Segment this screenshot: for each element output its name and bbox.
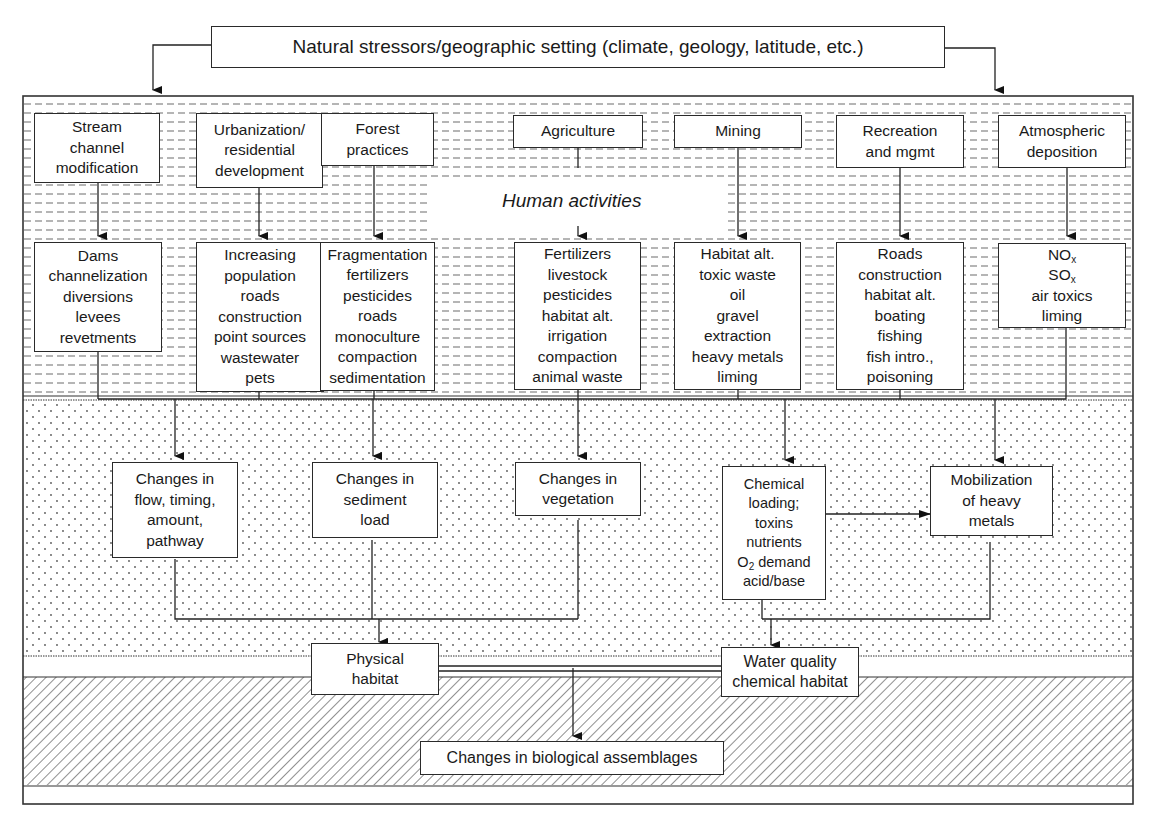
effect: livestock — [548, 265, 607, 286]
changes-flow: Changes in flow, timing, amount, pathway — [112, 462, 238, 558]
subscript: 2 — [749, 561, 755, 572]
label: O — [737, 554, 748, 570]
effect: point sources — [214, 327, 306, 348]
effect: roads — [358, 306, 397, 327]
effect: Roads — [878, 244, 923, 265]
label: development — [215, 161, 304, 182]
label: Water quality — [744, 652, 837, 673]
effects-forest-practices: Fragmentation fertilizers pesticides roa… — [320, 242, 435, 391]
effect: extraction — [704, 326, 771, 347]
label: Urbanization/ — [214, 120, 305, 141]
label: flow, timing, — [135, 490, 216, 511]
label: channel — [70, 138, 124, 159]
effect: pesticides — [343, 286, 412, 307]
effect: wastewater — [221, 348, 299, 369]
effect: poisoning — [867, 367, 933, 388]
label: Changes in — [539, 469, 617, 490]
human-activities-label: Human activities — [502, 190, 641, 212]
effect: habitat alt. — [542, 306, 614, 327]
label: Forest — [356, 119, 400, 140]
label: of heavy — [962, 491, 1021, 512]
activity-mining: Mining — [674, 115, 802, 148]
effect: channelization — [48, 266, 147, 287]
effect-text: SO — [1048, 266, 1070, 283]
label: chemical habitat — [732, 672, 848, 693]
activity-stream-channel: Stream channel modification — [34, 113, 160, 183]
effect: Increasing — [224, 245, 296, 266]
label: Mobilization — [951, 470, 1033, 491]
label: habitat — [352, 669, 399, 690]
label: vegetation — [542, 489, 614, 510]
label: residential — [224, 140, 295, 161]
effect-nox: NOx — [1048, 245, 1076, 266]
activity-forest-practices: Forest practices — [321, 113, 434, 166]
activity-atmospheric: Atmospheric deposition — [998, 115, 1126, 168]
label: Stream — [72, 117, 122, 138]
effect-text: NO — [1048, 246, 1071, 263]
effect: compaction — [338, 347, 417, 368]
label: Recreation — [863, 121, 938, 142]
effect: roads — [241, 286, 280, 307]
label: Changes in — [136, 469, 214, 490]
activity-agriculture: Agriculture — [513, 115, 643, 148]
label: demand — [758, 554, 810, 570]
effects-agriculture: Fertilizers livestock pesticides habitat… — [514, 242, 641, 390]
label-o2-demand: O2 demand — [737, 553, 810, 573]
label: toxins — [755, 514, 793, 534]
label: Agriculture — [541, 121, 615, 142]
label: loading; — [749, 494, 800, 514]
effects-recreation: Roads construction habitat alt. boating … — [836, 242, 964, 390]
activity-recreation: Recreation and mgmt — [836, 115, 964, 168]
label: Atmospheric — [1019, 121, 1105, 142]
label: metals — [969, 511, 1015, 532]
effect: population — [224, 266, 296, 287]
label: and mgmt — [866, 142, 935, 163]
effect: toxic waste — [699, 265, 776, 286]
effect: animal waste — [532, 367, 622, 388]
changes-vegetation: Changes in vegetation — [515, 462, 641, 516]
label: sediment — [344, 490, 407, 511]
effect: revetments — [60, 328, 137, 349]
effect: air toxics — [1031, 286, 1092, 307]
label: acid/base — [743, 572, 805, 592]
effect: diversions — [63, 287, 133, 308]
label: modification — [56, 158, 139, 179]
label: practices — [346, 140, 408, 161]
effect: Habitat alt. — [700, 244, 774, 265]
label: deposition — [1027, 142, 1098, 163]
label: Changes in biological assemblages — [447, 748, 698, 769]
changes-sediment: Changes in sediment load — [312, 462, 438, 538]
effect: heavy metals — [692, 347, 783, 368]
effect: oil — [730, 285, 746, 306]
label: amount, — [147, 510, 203, 531]
changes-chemical-loading: Chemical loading; toxins nutrients O2 de… — [722, 466, 826, 600]
effect: pets — [245, 368, 274, 389]
effect: boating — [875, 306, 926, 327]
physical-habitat-box: Physical habitat — [311, 643, 439, 695]
effect: Fragmentation — [328, 245, 428, 266]
water-quality-box: Water quality chemical habitat — [721, 647, 859, 697]
label: Changes in — [336, 469, 414, 490]
label: Chemical — [744, 475, 804, 495]
effect: fishing — [878, 326, 923, 347]
label: load — [360, 510, 389, 531]
effect: habitat alt. — [864, 285, 936, 306]
effect: Fertilizers — [544, 244, 611, 265]
effect: pesticides — [543, 285, 612, 306]
effect: construction — [218, 307, 302, 328]
label: Mining — [715, 121, 761, 142]
natural-stressors-label: Natural stressors/geographic setting (cl… — [293, 37, 864, 58]
activity-urbanization: Urbanization/ residential development — [196, 113, 323, 188]
label: pathway — [146, 531, 204, 552]
effect: fish intro., — [866, 347, 933, 368]
subscript: x — [1071, 274, 1076, 285]
label: Physical — [346, 649, 404, 670]
effect: levees — [76, 307, 121, 328]
effect: liming — [1042, 306, 1082, 327]
effect: gravel — [716, 306, 758, 327]
effect: liming — [717, 367, 757, 388]
effect: irrigation — [548, 326, 607, 347]
effects-stream-channel: Dams channelization diversions levees re… — [34, 242, 162, 352]
natural-stressors-box: Natural stressors/geographic setting (cl… — [211, 26, 945, 68]
biological-assemblages-box: Changes in biological assemblages — [420, 741, 724, 775]
